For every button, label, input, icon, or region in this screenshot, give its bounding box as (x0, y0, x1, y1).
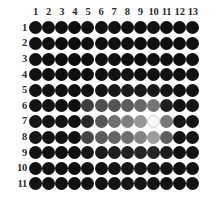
dot-cell (173, 146, 186, 159)
dot-cell (147, 68, 160, 81)
dot-cell (147, 21, 160, 34)
dot-cell (160, 115, 173, 128)
dot-cell (81, 146, 94, 159)
dot-cell (147, 99, 160, 112)
dot-cell (121, 162, 134, 175)
row-label-2: 2 (22, 36, 27, 50)
dot-cell (173, 115, 186, 128)
dot-cell (108, 84, 121, 97)
dot-cell (173, 37, 186, 50)
column-label-7: 7 (107, 5, 121, 18)
column-label-13: 13 (186, 5, 200, 18)
dot-cell (160, 162, 173, 175)
dot-cell (121, 37, 134, 50)
row-header-column: 1234567891011 (4, 20, 27, 192)
dot-cell (186, 115, 199, 128)
dot-cell (108, 146, 121, 159)
column-label-11: 11 (160, 5, 174, 18)
dot-cell (160, 68, 173, 81)
dot-cell (42, 84, 55, 97)
dot-cell (147, 37, 160, 50)
dot-cell (95, 99, 108, 112)
column-label-6: 6 (94, 5, 108, 18)
dot-cell (160, 146, 173, 159)
dot-cell (147, 177, 160, 190)
dot-cell (147, 115, 160, 128)
dot-cell (121, 21, 134, 34)
dot-cell (134, 177, 147, 190)
dot-cell (134, 53, 147, 66)
dot-cell (121, 53, 134, 66)
dot-cell (173, 53, 186, 66)
column-label-12: 12 (173, 5, 187, 18)
dot-cell (81, 21, 94, 34)
dot-cell (42, 53, 55, 66)
dot-cell (186, 146, 199, 159)
dot-cell (186, 99, 199, 112)
dot-cell (68, 146, 81, 159)
dot-cell (81, 53, 94, 66)
dot-cell (55, 84, 68, 97)
dot-matrix-figure: 12345678910111213 1234567891011 (0, 0, 213, 205)
dot-cell (147, 84, 160, 97)
dot-cell (108, 21, 121, 34)
dot-cell (173, 84, 186, 97)
column-label-3: 3 (55, 5, 69, 18)
dot-cell (55, 131, 68, 144)
dot-cell (81, 84, 94, 97)
dot-cell (147, 162, 160, 175)
dot-cell (81, 68, 94, 81)
row-label-11: 11 (17, 177, 27, 191)
dot-grid (29, 20, 199, 192)
dot-cell (42, 115, 55, 128)
dot-cell (42, 68, 55, 81)
dot-cell (134, 68, 147, 81)
dot-cell (55, 68, 68, 81)
row-label-3: 3 (22, 52, 27, 66)
dot-cell (42, 21, 55, 34)
dot-cell (173, 162, 186, 175)
dot-cell (42, 131, 55, 144)
dot-cell (55, 115, 68, 128)
dot-cell (173, 99, 186, 112)
dot-cell (121, 131, 134, 144)
dot-cell (81, 131, 94, 144)
row-label-6: 6 (22, 99, 27, 113)
dot-cell (173, 68, 186, 81)
dot-cell (108, 37, 121, 50)
dot-cell (121, 115, 134, 128)
dot-cell (173, 177, 186, 190)
dot-cell (160, 131, 173, 144)
dot-cell (186, 84, 199, 97)
dot-cell (147, 146, 160, 159)
dot-cell (81, 162, 94, 175)
dot-cell (81, 177, 94, 190)
dot-cell (160, 37, 173, 50)
column-label-4: 4 (68, 5, 82, 18)
dot-cell (160, 21, 173, 34)
dot-cell (134, 37, 147, 50)
dot-cell (81, 99, 94, 112)
dot-cell (108, 131, 121, 144)
dot-cell (55, 37, 68, 50)
dot-cell (108, 115, 121, 128)
dot-cell (134, 21, 147, 34)
dot-cell (68, 53, 81, 66)
dot-cell (186, 68, 199, 81)
dot-cell (121, 177, 134, 190)
column-label-2: 2 (42, 5, 56, 18)
dot-cell (186, 53, 199, 66)
dot-cell (29, 162, 42, 175)
dot-cell (134, 99, 147, 112)
dot-cell (29, 84, 42, 97)
dot-cell (95, 146, 108, 159)
column-label-9: 9 (133, 5, 147, 18)
dot-cell (186, 177, 199, 190)
dot-cell (55, 99, 68, 112)
dot-cell (108, 162, 121, 175)
dot-cell (68, 99, 81, 112)
dot-cell (95, 68, 108, 81)
row-label-8: 8 (22, 130, 27, 144)
dot-cell (173, 131, 186, 144)
dot-cell (186, 162, 199, 175)
